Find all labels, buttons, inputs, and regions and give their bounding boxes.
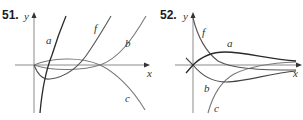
panel-52: 52. y x f a b c xyxy=(150,0,303,120)
curve-label-f: f xyxy=(202,26,207,38)
graph-51: y a f b c xyxy=(0,0,150,120)
y-arrow-icon xyxy=(191,12,196,18)
y-axis-label: y xyxy=(23,10,29,22)
y-axis-label: y xyxy=(182,10,188,22)
curve-label-a: a xyxy=(46,34,52,46)
curve-f xyxy=(34,16,111,79)
graph-52: y x f a b c xyxy=(150,0,303,120)
curve-label-a: a xyxy=(227,37,233,49)
y-arrow-icon xyxy=(32,12,37,18)
curve-label-b: b xyxy=(125,37,131,49)
curve-f xyxy=(193,18,296,70)
curve-label-f: f xyxy=(94,22,99,34)
panel-51: 51. y a f b c xyxy=(0,0,150,120)
curve-label-c: c xyxy=(125,92,130,104)
curve-label-b: b xyxy=(204,82,210,94)
x-axis-label: x xyxy=(292,67,298,79)
curve-label-c: c xyxy=(214,102,219,114)
